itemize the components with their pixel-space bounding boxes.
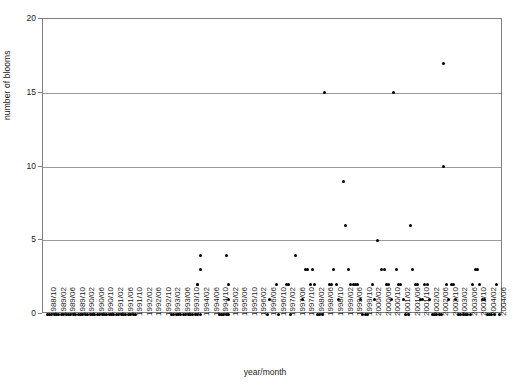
- x-tick-label: 1996/06: [269, 287, 278, 316]
- data-point: [371, 283, 374, 286]
- x-tick-label: 1999/02: [346, 287, 355, 316]
- data-point: [409, 224, 412, 227]
- x-tick-label: 1991/02: [116, 287, 125, 316]
- x-tick-label: 2001/06: [413, 287, 422, 316]
- data-point: [227, 283, 230, 286]
- x-tick-label: 1998/10: [336, 287, 345, 316]
- data-point: [294, 254, 297, 257]
- data-point: [330, 283, 333, 286]
- gridline: [43, 93, 501, 94]
- data-point: [313, 283, 316, 286]
- data-point: [309, 283, 312, 286]
- data-point: [342, 180, 345, 183]
- data-point: [395, 268, 398, 271]
- x-tick-label: 1998/06: [326, 287, 335, 316]
- y-tick-mark: [38, 313, 42, 314]
- x-tick-label: 2000/02: [374, 287, 383, 316]
- y-tick-label: 0: [14, 308, 36, 318]
- x-tick-label: 2002/10: [451, 287, 460, 316]
- y-tick-label: 10: [14, 161, 36, 171]
- x-tick-label: 1995/10: [250, 287, 259, 316]
- x-tick-label: 1993/06: [183, 287, 192, 316]
- x-tick-label: 2001/02: [403, 287, 412, 316]
- data-point: [225, 254, 228, 257]
- x-tick-label: 1991/10: [135, 287, 144, 316]
- x-tick-label: 1999/06: [355, 287, 364, 316]
- x-tick-label: 2002/06: [441, 287, 450, 316]
- x-tick-label: 1992/10: [164, 287, 173, 316]
- x-tick-label: 1990/10: [106, 287, 115, 316]
- x-tick-label: 1993/10: [192, 287, 201, 316]
- x-tick-label: 1995/02: [231, 287, 240, 316]
- data-point: [445, 283, 448, 286]
- x-tick-label: 1989/06: [68, 287, 77, 316]
- x-tick-label: 2003/02: [460, 287, 469, 316]
- data-point: [376, 239, 379, 242]
- data-point: [476, 268, 479, 271]
- data-point: [387, 283, 390, 286]
- data-point: [275, 283, 278, 286]
- x-tick-label: 2002/02: [432, 287, 441, 316]
- x-tick-label: 2004/02: [489, 287, 498, 316]
- x-tick-label: 1989/10: [78, 287, 87, 316]
- x-tick-label: 2000/06: [384, 287, 393, 316]
- data-point: [426, 283, 429, 286]
- x-tick-label: 2004/06: [499, 287, 508, 316]
- data-point: [196, 283, 199, 286]
- x-tick-label: 1997/06: [298, 287, 307, 316]
- x-tick-label: 1989/02: [59, 287, 68, 316]
- x-tick-label: 1990/06: [97, 287, 106, 316]
- x-axis-title: year/month: [0, 367, 530, 377]
- scatter-chart-figure: number of blooms 05101520 1988/101989/02…: [0, 0, 530, 386]
- x-tick-label: 1997/10: [307, 287, 316, 316]
- data-point: [356, 283, 359, 286]
- x-tick-label: 1990/02: [87, 287, 96, 316]
- x-tick-label: 1993/02: [173, 287, 182, 316]
- x-tick-label: 1997/02: [288, 287, 297, 316]
- x-tick-label: 2003/10: [479, 287, 488, 316]
- y-tick-label: 5: [14, 234, 36, 244]
- data-point: [416, 283, 419, 286]
- data-point: [478, 283, 481, 286]
- gridline: [43, 167, 501, 168]
- x-tick-label: 1994/02: [202, 287, 211, 316]
- y-tick-label: 15: [14, 87, 36, 97]
- data-point: [392, 91, 395, 94]
- x-tick-label: 1992/02: [145, 287, 154, 316]
- x-tick-label: 1998/02: [317, 287, 326, 316]
- x-tick-label: 1992/06: [154, 287, 163, 316]
- data-point: [306, 268, 309, 271]
- data-point: [323, 91, 326, 94]
- data-point: [383, 268, 386, 271]
- x-tick-label: 1996/02: [259, 287, 268, 316]
- data-point: [287, 283, 290, 286]
- x-tick-label: 1995/06: [240, 287, 249, 316]
- data-point: [335, 283, 338, 286]
- x-tick-label: 1999/10: [365, 287, 374, 316]
- x-tick-label: 2000/10: [393, 287, 402, 316]
- x-tick-label: 2001/10: [422, 287, 431, 316]
- data-point: [442, 62, 445, 65]
- data-point: [199, 268, 202, 271]
- data-point: [344, 224, 347, 227]
- x-tick-label: 1996/10: [279, 287, 288, 316]
- data-point: [399, 283, 402, 286]
- y-axis-title: number of blooms: [2, 0, 12, 120]
- x-tick-label: 1994/10: [221, 287, 230, 316]
- data-point: [347, 268, 350, 271]
- plot-area: [42, 18, 502, 313]
- x-tick-label: 1988/10: [49, 287, 58, 316]
- data-point: [199, 254, 202, 257]
- data-point: [332, 268, 335, 271]
- data-point: [311, 268, 314, 271]
- data-point: [452, 283, 455, 286]
- data-point: [411, 268, 414, 271]
- y-tick-label: 20: [14, 13, 36, 23]
- gridline: [43, 240, 501, 241]
- x-tick-label: 2003/06: [470, 287, 479, 316]
- x-tick-label: 1991/06: [126, 287, 135, 316]
- data-point: [471, 283, 474, 286]
- x-tick-label: 1994/06: [212, 287, 221, 316]
- data-point: [495, 283, 498, 286]
